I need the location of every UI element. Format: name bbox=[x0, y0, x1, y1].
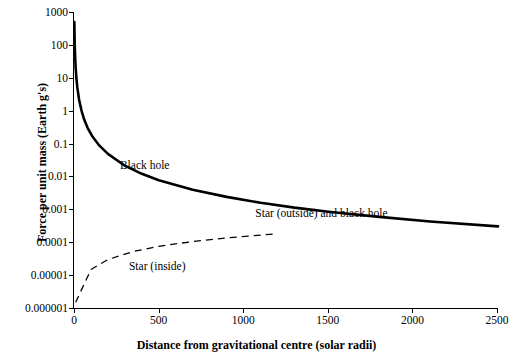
y-tick-label: 0.000001 bbox=[25, 302, 74, 314]
series-solid-path bbox=[74, 22, 498, 226]
y-tick-label: 0.001 bbox=[42, 203, 74, 215]
x-tick-label: 1000 bbox=[232, 314, 255, 326]
y-tick-label: 0.00001 bbox=[31, 269, 74, 281]
y-tick-label: 1 bbox=[62, 105, 74, 117]
chart-container: Force per unit mass (Earth g's) Distance… bbox=[0, 0, 513, 362]
plot-area: 1000 100 10 1 0.1 0.01 0.001 0.0001 bbox=[73, 12, 497, 309]
annotation-black-hole: Black hole bbox=[120, 159, 170, 171]
annotation-star-inside: Star (inside) bbox=[129, 260, 186, 272]
y-tick-label: 0.0001 bbox=[36, 236, 74, 248]
y-tick-label: 0.1 bbox=[54, 138, 74, 150]
y-tick-label: 100 bbox=[51, 39, 74, 51]
x-tick-label: 2500 bbox=[486, 314, 509, 326]
y-tick-label: 0.01 bbox=[48, 170, 74, 182]
x-tick-label: 500 bbox=[150, 314, 167, 326]
x-tick-label: 2000 bbox=[401, 314, 424, 326]
y-tick-label: 1000 bbox=[45, 6, 74, 18]
x-axis-title: Distance from gravitational centre (sola… bbox=[0, 338, 513, 353]
x-tick-label: 1500 bbox=[316, 314, 339, 326]
annotation-star-outside: Star (outside) and black hole bbox=[255, 207, 387, 219]
x-tick-label: 0 bbox=[71, 314, 77, 326]
y-tick-label: 10 bbox=[57, 72, 75, 84]
